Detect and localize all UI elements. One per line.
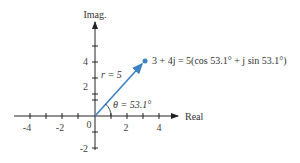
y-tick-label: -2 (80, 143, 88, 154)
real-axis-label: Real (185, 111, 204, 122)
y-tick-label: 2 (83, 81, 88, 92)
complex-plane-diagram: -4 -2 0 2 4 4 2 -2 Imag. Real r = 5 θ = … (0, 0, 300, 163)
angle-label: θ = 53.1° (113, 99, 151, 110)
phasor-point (143, 59, 148, 64)
angle-arc (106, 104, 112, 116)
y-tick-label: 4 (83, 56, 88, 67)
imag-axis (92, 22, 98, 150)
point-label: 3 + 4j = 5(cos 53.1° + j sin 53.1°) (152, 55, 287, 67)
origin-label: 0 (87, 119, 92, 130)
x-tick-label: -2 (56, 122, 64, 133)
x-tick-label: -4 (23, 122, 31, 133)
imag-axis-label: Imag. (83, 9, 106, 20)
magnitude-label: r = 5 (101, 69, 122, 80)
x-tick-label: 4 (157, 122, 162, 133)
x-tick-label: 2 (124, 122, 129, 133)
